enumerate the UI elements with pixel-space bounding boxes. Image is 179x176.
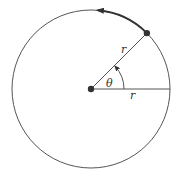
label-radius-angled: r [121,43,127,56]
label-radius-horizontal: r [130,89,136,102]
circular-motion-diagram: r θ r [0,0,179,176]
motion-arc-arrow [98,10,147,33]
center-point [88,86,94,92]
moving-point [144,30,150,36]
label-angle-theta: θ [106,77,113,90]
radius-segment-angled [91,33,147,89]
angle-arc-arrow [116,67,125,89]
